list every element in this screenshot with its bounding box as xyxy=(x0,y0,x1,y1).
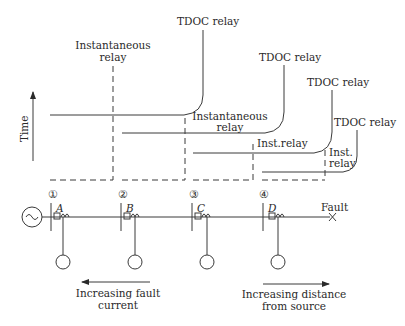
annotations: Increasing fault current Increasing dist… xyxy=(76,282,347,312)
relay-c-icon xyxy=(200,255,214,269)
bus-4: ④ D xyxy=(259,188,285,269)
bus-number-1: ① xyxy=(48,188,58,200)
inst-label-1b: relay xyxy=(100,51,127,63)
bus-3: ③ C xyxy=(189,188,214,269)
tdoc-label-3: TDOC relay xyxy=(307,76,369,88)
relay-a-icon xyxy=(56,255,70,269)
distance-label-2: from source xyxy=(262,300,326,312)
fault-current-label-1: Increasing fault xyxy=(76,287,161,299)
bus-2: ② B xyxy=(118,188,142,269)
breaker-label-d: D xyxy=(267,202,277,214)
fault-x-icon xyxy=(329,213,336,221)
breaker-label-b: B xyxy=(125,202,134,214)
time-axis: Time xyxy=(18,92,33,161)
breaker-label-c: C xyxy=(197,202,205,214)
bus-number-4: ④ xyxy=(259,188,269,200)
tdoc-label-1: TDOC relay xyxy=(177,15,239,27)
ac-wave-icon xyxy=(26,215,38,220)
relay-b-icon xyxy=(128,255,142,269)
one-line-diagram: Fault ① A ② B ③ C xyxy=(22,188,349,269)
bus-number-2: ② xyxy=(118,188,128,200)
inst-label-1a: Instantaneous xyxy=(75,39,150,51)
relay-d-icon xyxy=(271,255,285,269)
tdoc-label-4: TDOC relay xyxy=(334,116,396,128)
bus-number-3: ③ xyxy=(189,188,199,200)
fault-current-label-2: current xyxy=(98,299,139,311)
distance-label-1: Increasing distance xyxy=(242,288,347,300)
breaker-label-a: A xyxy=(55,202,64,214)
inst-label-3: Inst.relay xyxy=(257,137,308,149)
tdoc-label-2: TDOC relay xyxy=(259,51,321,63)
time-axis-label: Time xyxy=(18,115,30,142)
inst-label-2b: relay xyxy=(217,121,244,133)
fault-label: Fault xyxy=(321,201,349,213)
relay-coordination-diagram: Time TDOC relay Instantaneous relay TDOC… xyxy=(0,0,405,326)
relay-curve-1: TDOC relay Instantaneous relay xyxy=(50,15,239,180)
bus-1: ① A xyxy=(48,188,70,269)
inst-label-4b: relay xyxy=(329,157,356,169)
